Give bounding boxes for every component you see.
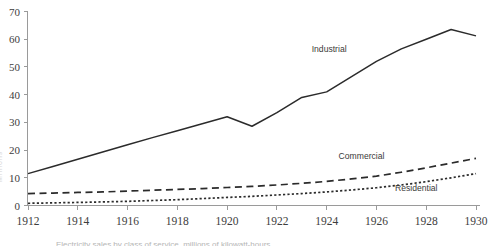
- line-chart: 010203040506070 191219141916191819201922…: [0, 0, 496, 246]
- y-tick-label: 60: [9, 33, 21, 45]
- x-tick-label: 1930: [465, 215, 488, 227]
- y-tick-label: 10: [9, 172, 21, 184]
- y-tick-label: 30: [9, 116, 21, 128]
- y-tick-label: 50: [9, 61, 21, 73]
- x-tick-label: 1924: [315, 215, 338, 227]
- x-tick-label: 1920: [216, 215, 239, 227]
- x-tick-label: 1912: [17, 215, 40, 227]
- x-tick-label: 1926: [365, 215, 388, 227]
- series-label-group: IndustrialCommercialResidential: [312, 44, 438, 193]
- x-tick-label: 1918: [166, 215, 189, 227]
- y-tick-label: 70: [9, 6, 21, 18]
- y-tick-label: 40: [9, 89, 21, 101]
- x-tick-label: 1928: [415, 215, 438, 227]
- x-tick-group: 1912191419161918192019221924192619281930: [17, 206, 488, 228]
- y-axis-group: 010203040506070: [9, 6, 28, 212]
- x-tick-label: 1922: [265, 215, 288, 227]
- x-tick-label: 1914: [66, 215, 89, 227]
- series-label-residential: Residential: [395, 183, 438, 193]
- x-tick-label: 1916: [116, 215, 139, 227]
- series-group: [28, 30, 476, 204]
- series-label-industrial: Industrial: [312, 44, 347, 54]
- figure-caption-clipped: Electricity sales by class of service, m…: [56, 240, 356, 246]
- y-tick-group: 010203040506070: [9, 6, 28, 212]
- y-tick-label: 20: [9, 144, 21, 156]
- x-axis-group: 1912191419161918192019221924192619281930: [17, 206, 488, 228]
- series-label-commercial: Commercial: [339, 151, 385, 161]
- y-tick-label: 0: [15, 200, 21, 212]
- chart-container: 010203040506070 191219141916191819201922…: [0, 0, 496, 246]
- series-line-industrial: [28, 30, 476, 174]
- y-axis-label-clipped: Millions: [0, 86, 10, 182]
